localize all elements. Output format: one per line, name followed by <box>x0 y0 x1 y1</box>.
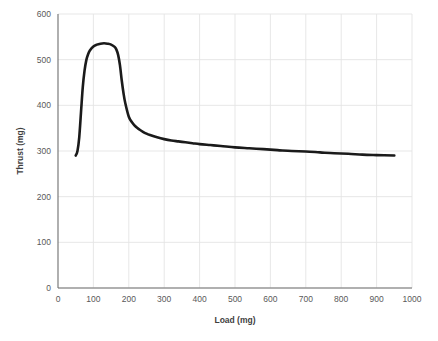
x-tick-label: 100 <box>86 294 100 304</box>
y-tick-label: 200 <box>37 192 51 202</box>
x-tick-label: 500 <box>228 294 242 304</box>
x-tick-label: 900 <box>370 294 384 304</box>
chart-background <box>0 0 438 341</box>
x-tick-label: 300 <box>157 294 171 304</box>
x-axis-title: Load (mg) <box>214 315 255 325</box>
y-tick-label: 0 <box>46 283 51 293</box>
y-tick-label: 100 <box>37 237 51 247</box>
x-tick-label: 200 <box>122 294 136 304</box>
y-tick-label: 500 <box>37 55 51 65</box>
y-tick-label: 300 <box>37 146 51 156</box>
thrust-vs-load-line-chart: 0100200300400500600 01002003004005006007… <box>0 0 438 341</box>
x-tick-label: 400 <box>193 294 207 304</box>
y-axis-title: Thrust (mg) <box>15 127 25 174</box>
x-tick-label: 1000 <box>403 294 422 304</box>
y-tick-label: 600 <box>37 9 51 19</box>
chart-container: 0100200300400500600 01002003004005006007… <box>0 0 438 341</box>
x-tick-label: 600 <box>263 294 277 304</box>
y-tick-label: 400 <box>37 100 51 110</box>
x-tick-label: 800 <box>334 294 348 304</box>
x-tick-label: 0 <box>56 294 61 304</box>
x-tick-label: 700 <box>299 294 313 304</box>
